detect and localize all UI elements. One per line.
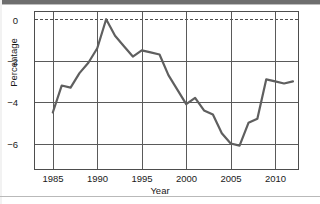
data-series-line	[35, 12, 297, 168]
series-polyline	[53, 19, 293, 145]
x-tick-label: 2000	[176, 173, 197, 184]
x-tick-label: 1990	[87, 173, 108, 184]
x-axis-title: Year	[0, 185, 320, 196]
x-tick-label: 1985	[43, 173, 64, 184]
page-rule-bottom	[0, 196, 320, 197]
x-tick-label: 2010	[265, 173, 286, 184]
plot-inner	[35, 12, 298, 169]
y-tick-label: −6	[7, 138, 18, 149]
figure-page: 0−2−4−6 198519901995200020052010 Year Pe…	[0, 0, 320, 204]
x-tick-label: 1995	[131, 173, 152, 184]
x-tick-label: 2005	[220, 173, 241, 184]
line-chart: 0−2−4−6 198519901995200020052010 Year Pe…	[0, 5, 320, 196]
y-axis-title: Percentage	[8, 3, 19, 123]
plot-area	[34, 11, 299, 170]
